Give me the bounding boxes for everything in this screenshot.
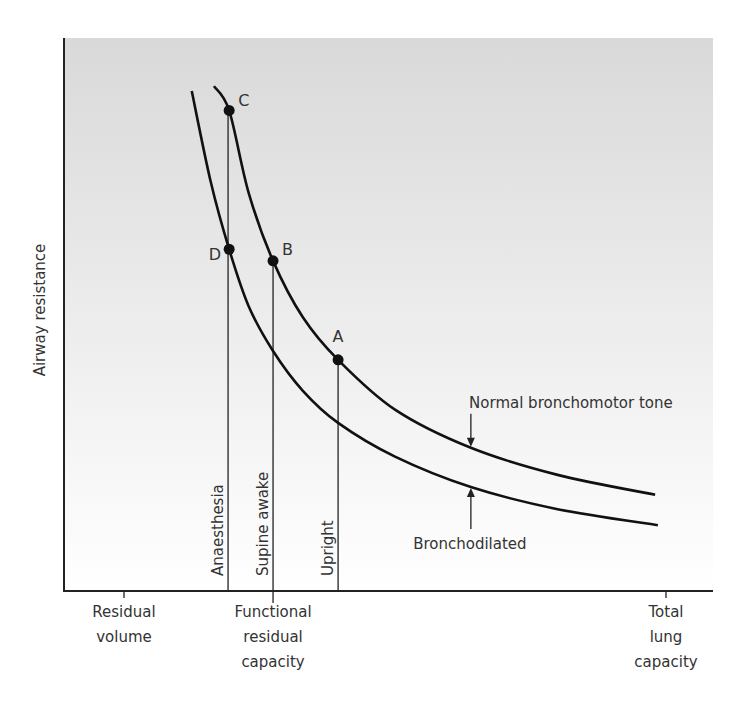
point-label-d: D: [209, 245, 221, 264]
point-c: [224, 105, 235, 116]
x-tick-label-line: capacity: [634, 653, 697, 671]
plot-background: [64, 38, 713, 591]
point-label-b: B: [282, 240, 293, 259]
x-tick-label-line: Total: [647, 603, 683, 621]
x-tick-label-line: volume: [96, 628, 152, 646]
point-label-a: A: [333, 327, 344, 346]
x-tick-label-line: Residual: [92, 603, 155, 621]
annotation-label-normal-bronchomotor-tone: Normal bronchomotor tone: [469, 394, 673, 412]
point-b: [268, 255, 279, 266]
x-tick-label-line: lung: [650, 628, 683, 646]
x-tick-label-line: capacity: [241, 653, 304, 671]
x-tick-label-line: residual: [243, 628, 302, 646]
vertical-line-label-upright: Upright: [319, 520, 337, 576]
vertical-line-label-supine-awake: Supine awake: [254, 472, 272, 576]
y-axis-label: Airway resistance: [31, 244, 49, 377]
point-d: [224, 244, 235, 255]
vertical-line-label-anaesthesia: Anaesthesia: [209, 484, 227, 576]
point-a: [333, 354, 344, 365]
x-tick-label-line: Functional: [234, 603, 311, 621]
point-label-c: C: [238, 91, 249, 110]
annotation-label-bronchodilated: Bronchodilated: [413, 535, 526, 553]
airway-resistance-chart: Airway resistance AnaesthesiaSupine awak…: [0, 0, 740, 705]
